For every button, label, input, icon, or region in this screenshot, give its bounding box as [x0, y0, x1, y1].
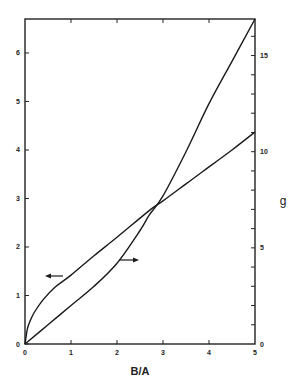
g-curve [25, 19, 255, 344]
x-tick-label: 0 [23, 349, 27, 356]
y-right-tick-label: 0 [260, 341, 264, 348]
y-left-tick-label: 5 [16, 98, 20, 105]
y-left-tick-label: 6 [16, 49, 20, 56]
y-right-tick-label: 15 [260, 52, 268, 59]
x-tick-label: 2 [115, 349, 119, 356]
plot-frame [25, 19, 255, 344]
data-curves [25, 19, 255, 344]
y-left-tick-label: 2 [16, 243, 20, 250]
y-right-tick-label: 5 [260, 244, 264, 251]
x-tick-label: 1 [69, 349, 73, 356]
y-right-tick-label: 10 [260, 148, 268, 155]
chart: 0123450123456051015 B/A g [0, 0, 297, 388]
left-axis-curve [25, 132, 255, 344]
y-left-tick-label: 1 [16, 292, 20, 299]
x-tick-label: 4 [207, 349, 211, 356]
x-axis-title: B/A [131, 365, 150, 377]
left-arrowhead-icon [45, 274, 51, 279]
plot-border [25, 19, 255, 344]
y-left-tick-label: 0 [16, 341, 20, 348]
y-left-tick-label: 3 [16, 195, 20, 202]
x-tick-label: 3 [161, 349, 165, 356]
right-axis-title: g [280, 194, 287, 208]
axis-arrows [45, 258, 139, 279]
right-arrowhead-icon [133, 258, 139, 263]
axis-ticks: 0123450123456051015 [16, 19, 268, 356]
x-tick-label: 5 [253, 349, 257, 356]
y-left-tick-label: 4 [16, 146, 20, 153]
